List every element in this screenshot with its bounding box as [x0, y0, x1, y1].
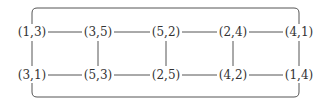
node-1-3: (1,3)	[17, 25, 47, 39]
node-4-1: (4,1)	[284, 25, 314, 39]
node-4-2: (4,2)	[218, 68, 248, 82]
node-2-4: (2,4)	[218, 25, 248, 39]
outer-frame-bottom	[32, 83, 299, 97]
node-5-3: (5,3)	[83, 68, 113, 82]
node-2-5: (2,5)	[151, 68, 181, 82]
node-3-1: (3,1)	[17, 68, 47, 82]
edges-layer	[0, 0, 330, 105]
outer-frame	[32, 8, 299, 24]
node-5-2: (5,2)	[151, 25, 181, 39]
node-1-4: (1,4)	[284, 68, 314, 82]
node-3-5: (3,5)	[83, 25, 113, 39]
graph-diagram: (1,3) (3,5) (5,2) (2,4) (4,1) (3,1) (5,3…	[0, 0, 330, 105]
